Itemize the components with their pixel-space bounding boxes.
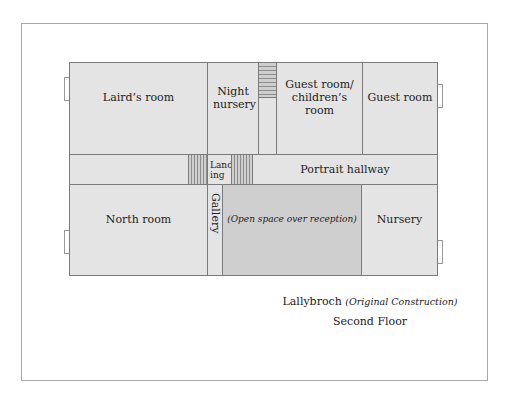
room-open-space: (Open space over reception) bbox=[222, 184, 362, 276]
floor-plan: Laird’s room Night nursery Guest room/ c… bbox=[69, 62, 437, 275]
room-label: Guest room bbox=[368, 91, 433, 104]
room-north-room: North room bbox=[69, 184, 208, 276]
room-label: Laird’s room bbox=[103, 91, 174, 104]
caption-title: Lallybroch bbox=[283, 295, 342, 308]
stairs-east bbox=[231, 154, 253, 185]
hallway-west bbox=[69, 154, 189, 185]
room-label: Guest room/ children’s room bbox=[280, 78, 360, 117]
room-label: North room bbox=[106, 213, 171, 226]
room-lairds-room: Laird’s room bbox=[69, 62, 208, 155]
room-label: Portrait hallway bbox=[300, 163, 389, 176]
room-nursery: Nursery bbox=[361, 184, 438, 276]
room-night-nursery: Night nursery bbox=[207, 62, 259, 155]
caption-floor: Second Floor bbox=[270, 312, 470, 332]
room-portrait-hallway: Portrait hallway bbox=[252, 154, 438, 185]
caption-subtitle: (Original Construction) bbox=[345, 296, 457, 307]
stairs-west bbox=[188, 154, 208, 185]
room-label: Gallery bbox=[209, 193, 222, 233]
room-gallery: Gallery bbox=[207, 184, 223, 276]
room-label: Land- ing bbox=[210, 160, 228, 180]
diagram-caption: Lallybroch (Original Construction) Secon… bbox=[270, 292, 470, 332]
room-guest-room: Guest room bbox=[362, 62, 438, 155]
room-label: Nursery bbox=[377, 213, 423, 226]
room-landing: Land- ing bbox=[207, 154, 232, 185]
room-guest-children: Guest room/ children’s room bbox=[276, 62, 363, 155]
room-label: Night nursery bbox=[213, 85, 253, 111]
stairs-up bbox=[258, 62, 277, 98]
room-label: (Open space over reception) bbox=[227, 213, 357, 226]
caption-title-line: Lallybroch (Original Construction) bbox=[270, 292, 470, 312]
